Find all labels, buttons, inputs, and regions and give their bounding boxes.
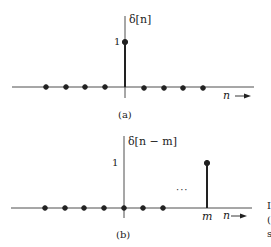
panel-a-ylabel: δ[n] <box>129 14 151 26</box>
cut-text-1: I <box>267 200 271 212</box>
panel-b-amplitude-label: 1 <box>112 157 118 169</box>
panel-a-caption: (a) <box>118 109 132 121</box>
panel-b-impulse-position-label: m <box>202 211 212 223</box>
panel-b-impulse-dot <box>204 160 209 165</box>
panel-b-ellipsis: ··· <box>176 184 189 196</box>
panel-b-graphics <box>11 136 252 219</box>
cut-text-2: ( <box>267 214 271 226</box>
impulse-diagrams <box>0 0 271 247</box>
panel-a-amplitude-label: 1 <box>114 36 120 48</box>
panel-b-caption: (b) <box>116 229 130 241</box>
panel-a-arrow-head <box>244 94 251 99</box>
panel-b-arrow-head <box>240 214 247 219</box>
panel-a-impulse-dot <box>122 39 127 44</box>
cut-text-3: s <box>267 228 271 240</box>
panel-b-xlabel: n <box>223 210 230 222</box>
panel-a-xlabel: n <box>223 90 230 102</box>
panel-a-graphics <box>12 16 254 99</box>
panel-b-ylabel: δ[n − m] <box>128 136 177 148</box>
